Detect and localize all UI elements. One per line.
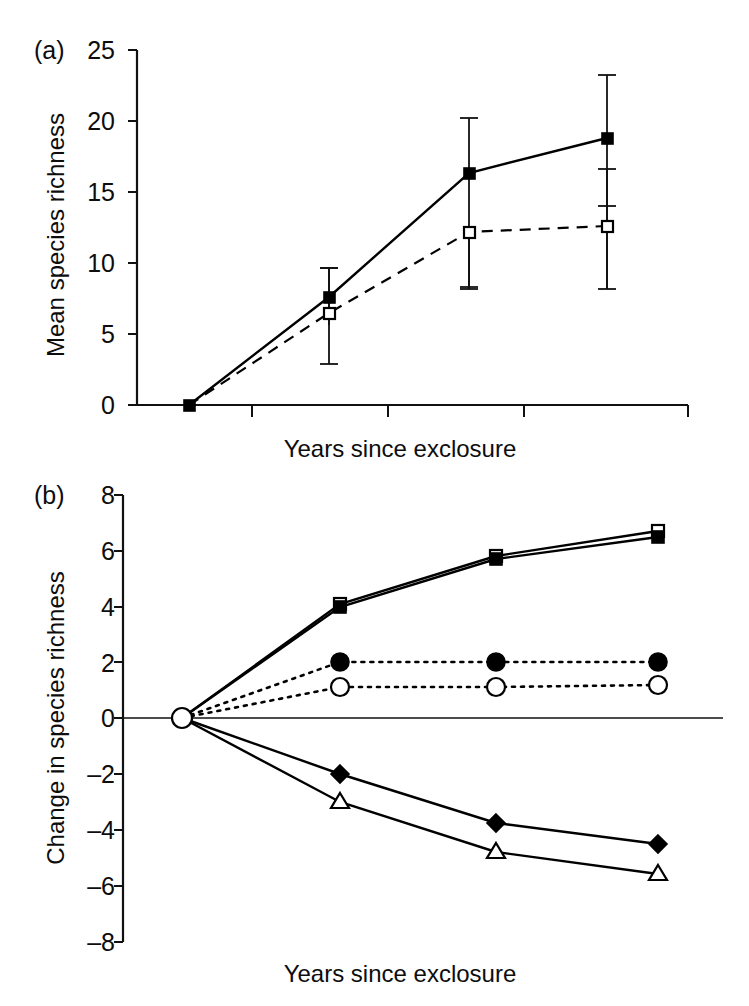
panel-b-marker-filled-diamond (487, 814, 505, 832)
panel-b-ytick-0: 0 (101, 704, 115, 732)
panel-a-ytick-15: 15 (87, 178, 115, 206)
panel-a: (a) 25 20 15 10 5 0 (0, 0, 749, 470)
panel-b-marker-filled-square (652, 531, 664, 543)
panel-b-marker-filled-diamond (649, 835, 667, 853)
panel-b-marker-filled-square (334, 601, 346, 613)
panel-b-ytick-4: 4 (101, 593, 115, 621)
panel-b-ytick-neg4: –4 (87, 816, 115, 844)
panel-a-marker-open-square (464, 227, 475, 238)
panel-a-series-filled-square-line (189, 138, 607, 405)
panel-a-ytick-25: 25 (87, 36, 115, 64)
panel-b-x-axis-title: Years since exclosure (284, 960, 517, 987)
panel-a-y-axis-title: Mean species richness (42, 113, 69, 357)
panel-a-marker-filled-square (464, 168, 475, 179)
panel-b-y-axis-title: Change in species richness (42, 571, 69, 865)
panel-b-ytick-neg8: –8 (87, 928, 115, 956)
panel-b-ytick-neg2: –2 (87, 760, 115, 788)
figure-container: (a) 25 20 15 10 5 0 (0, 0, 749, 1006)
panel-a-ytick-20: 20 (87, 107, 115, 135)
panel-a-series-open-square-line (189, 226, 607, 405)
panel-a-x-axis-title: Years since exclosure (284, 435, 517, 462)
panel-a-marker-filled-square (602, 133, 613, 144)
panel-b-marker-open-circle (649, 676, 667, 694)
panel-a-ytick-5: 5 (101, 320, 115, 348)
panel-b-marker-open-circle (487, 678, 505, 696)
panel-a-plot: (a) 25 20 15 10 5 0 (0, 0, 749, 470)
panel-b-series-filled-circle-line (182, 662, 658, 718)
panel-b-series-open-square-line (182, 531, 658, 718)
panel-a-marker-open-square (324, 308, 335, 319)
panel-b-marker-filled-circle (331, 653, 349, 671)
panel-b-ytick-8: 8 (101, 481, 115, 509)
panel-b-marker-filled-diamond (331, 765, 349, 783)
panel-b-marker-filled-circle (649, 653, 667, 671)
panel-b-series-open-circle-line (182, 685, 658, 718)
panel-a-ytick-10: 10 (87, 249, 115, 277)
panel-b-series-open-triangle-line (182, 718, 658, 874)
panel-b-ytick-6: 6 (101, 537, 115, 565)
panel-b-marker-filled-square (490, 553, 502, 565)
panel-b-ytick-2: 2 (101, 649, 115, 677)
panel-b: (b) 8 6 4 2 0 –2 –4 –6 –8 (0, 460, 749, 1006)
panel-b-series-filled-square-line (182, 537, 658, 718)
panel-b-plot: (b) 8 6 4 2 0 –2 –4 –6 –8 (0, 460, 749, 1006)
panel-a-letter: (a) (34, 36, 65, 64)
panel-a-marker-filled-square (324, 292, 335, 303)
panel-a-marker-open-square (602, 221, 613, 232)
panel-a-ytick-0: 0 (101, 391, 115, 419)
panel-a-marker-filled-square (184, 400, 195, 411)
panel-b-marker-filled-circle (487, 653, 505, 671)
panel-b-marker-open-triangle (331, 793, 349, 808)
panel-b-ytick-neg6: –6 (87, 872, 115, 900)
panel-b-marker-origin-open-circle (172, 708, 192, 728)
panel-b-letter: (b) (34, 481, 65, 509)
panel-b-marker-open-circle (331, 678, 349, 696)
panel-b-series-filled-diamond-line (182, 718, 658, 844)
